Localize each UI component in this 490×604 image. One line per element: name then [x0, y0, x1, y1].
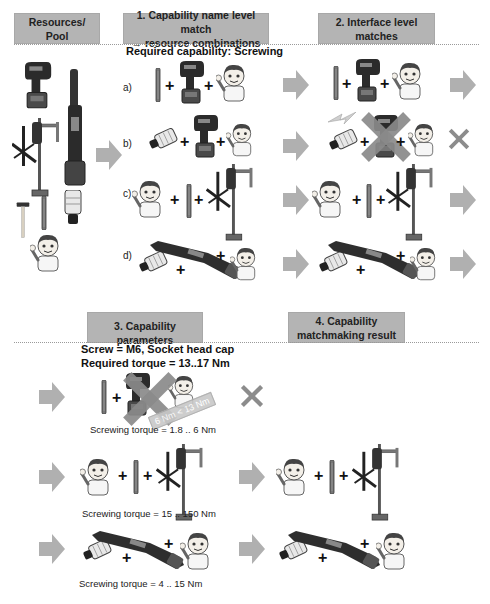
straight-nutrunner-icon: [60, 68, 90, 190]
plus-sign: +: [376, 192, 385, 208]
header-step2: 2. Interface levelmatches: [318, 13, 435, 44]
header-step4-line1: 4. Capability: [297, 314, 396, 328]
arrow-into-step3: [39, 462, 65, 492]
plus-sign: +: [352, 192, 361, 208]
screwdriver-bit-icon: [133, 460, 139, 494]
plus-sign: +: [396, 248, 405, 264]
screwdriver-bit-icon: [41, 196, 47, 230]
plus-sign: +: [396, 134, 405, 150]
worker-icon: [312, 178, 346, 218]
arrow-step1-to-step2: [283, 70, 309, 100]
combo-d-label: d): [123, 250, 132, 261]
plus-sign: +: [342, 76, 351, 92]
plus-sign: +: [216, 134, 225, 150]
rejected-cross-icon: [240, 384, 264, 408]
plus-sign: +: [143, 468, 152, 484]
header-resources-line2: Pool: [29, 29, 86, 43]
worker-icon: [276, 456, 310, 496]
plus-sign: +: [380, 76, 389, 92]
torque-value: Screwing torque = 15 .. 150 Nm: [82, 508, 216, 519]
arrow-step1-to-step2: [283, 249, 309, 279]
arrow-step2-to-step3: [450, 70, 476, 100]
torque-value: Screwing torque = 1.8 .. 6 Nm: [90, 424, 216, 435]
combo-c-label: c): [123, 188, 131, 199]
screwdriver-bit-icon: [329, 460, 335, 494]
plus-sign: +: [314, 468, 323, 484]
plus-sign: +: [360, 536, 369, 552]
screwdriver-bit-icon: [366, 184, 372, 218]
plus-sign: +: [112, 390, 121, 406]
worker-icon: [408, 120, 438, 158]
mounted-nutrunner-icon: [386, 164, 436, 242]
mounted-nutrunner-icon: [12, 118, 62, 198]
screw-spec: Screw = M6, Socket head cap: [81, 343, 234, 355]
required-torque: Required torque = 13..17 Nm: [81, 357, 230, 369]
cordless-drill-icon: [352, 58, 382, 104]
hammer-icon: [16, 196, 30, 244]
header-step1: 1. Capability name level match→ resource…: [123, 13, 269, 44]
arrow-into-step3: [39, 382, 65, 412]
header-resources-pool: Resources/Pool: [14, 13, 100, 44]
header-step2-line1: 2. Interface level: [336, 15, 418, 29]
plus-sign: +: [216, 248, 225, 264]
screwdriver-bit-icon: [333, 66, 339, 100]
plus-sign: +: [170, 192, 179, 208]
worker-icon: [80, 456, 114, 496]
plus-sign: +: [164, 536, 173, 552]
torque-value: Screwing torque = 4 .. 15 Nm: [79, 578, 202, 589]
plus-sign: +: [194, 192, 203, 208]
rejected-cross-icon: [448, 128, 470, 150]
cordless-drill-icon: [20, 62, 54, 110]
plus-sign: +: [176, 262, 185, 278]
arrow-step2-to-step3: [450, 249, 476, 279]
combo-a-label: a): [123, 82, 132, 93]
worker-icon: [392, 60, 426, 100]
screwdriver-bit-icon: [155, 68, 161, 102]
arrow-step1-to-step2: [283, 131, 309, 161]
header-resources-line1: Resources/: [29, 15, 86, 29]
mounted-nutrunner-icon: [206, 164, 256, 242]
header-step3: 3. Capability parameters: [87, 312, 203, 343]
worker-icon: [230, 244, 260, 282]
header-step4-line2: matchmaking result: [297, 328, 396, 342]
header-step4: 4. Capabilitymatchmaking result: [288, 312, 405, 343]
plus-sign: +: [356, 262, 365, 278]
screwdriver-bit-icon: [101, 380, 107, 414]
arrow-into-step3: [39, 534, 65, 564]
arrow-into-step4: [239, 534, 265, 564]
socket-bit-icon: [62, 190, 84, 226]
plus-sign: +: [318, 550, 327, 566]
arrow-step2-to-step3: [450, 185, 476, 215]
plus-sign: +: [180, 134, 189, 150]
plus-sign: +: [339, 468, 348, 484]
angle-nutrunner-icon: [90, 528, 190, 570]
header-step1-line1: 1. Capability name level match: [124, 8, 268, 36]
worker-icon: [180, 530, 214, 570]
cordless-drill-icon: [176, 60, 206, 106]
plus-sign: +: [118, 468, 127, 484]
plus-sign: +: [122, 550, 131, 566]
mounted-nutrunner-icon: [352, 444, 402, 522]
arrow-pool-to-step1: [96, 140, 122, 170]
socket-bit-icon: [146, 128, 182, 150]
worker-icon: [226, 120, 256, 158]
plus-sign: +: [204, 78, 213, 94]
header-step2-line2: matches: [336, 29, 418, 43]
required-capability: Required capability: Screwing: [126, 45, 283, 57]
arrow-step1-to-step2: [283, 185, 309, 215]
worker-icon: [410, 244, 440, 282]
screwdriver-bit-icon: [186, 184, 192, 218]
worker-icon: [216, 62, 250, 102]
arrow-into-step4: [239, 462, 265, 492]
angle-nutrunner-icon: [286, 528, 386, 570]
combo-b-label: b): [123, 138, 132, 149]
socket-bit-icon: [326, 128, 362, 152]
worker-icon: [376, 530, 410, 570]
worker-icon: [132, 178, 166, 218]
worker-icon: [30, 232, 64, 272]
plus-sign: +: [165, 78, 174, 94]
